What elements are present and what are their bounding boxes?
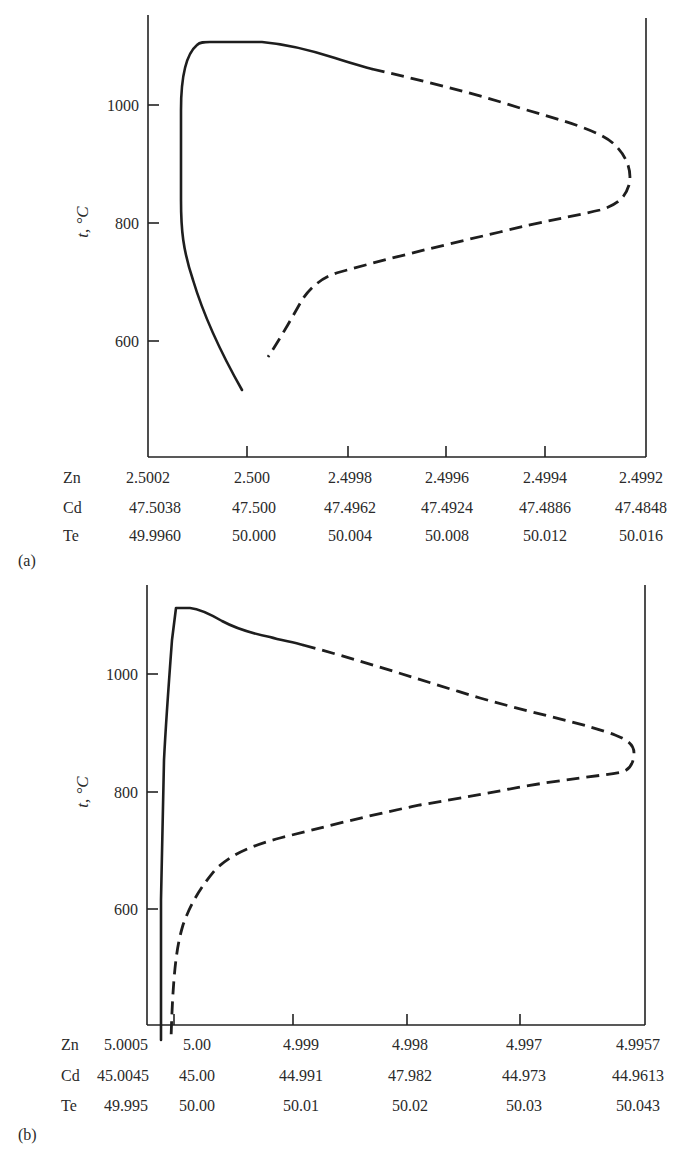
panel-a-cd-value: 47.4962 [324,499,376,516]
panel-a-cd-value: 47.4848 [615,499,667,516]
panel-a-zn-value: 2.4992 [619,469,663,486]
figure-canvas: 1000 800 600 t, °C Zn 2.5002 2.500 2.499… [0,0,684,1166]
panel-b-te-value: 50.01 [283,1097,319,1114]
panel-b-cd-value: 44.973 [502,1067,546,1084]
panel-a-ytick-label-1000: 1000 [107,97,139,114]
panel-a-zn-value: 2.5002 [126,469,170,486]
panel-a-zn-value: 2.4996 [425,469,469,486]
panel-a-te-value: 50.008 [425,527,469,544]
panel-b-row-label-cd: Cd [61,1067,80,1084]
panel-b-te-value: 50.00 [179,1097,215,1114]
panel-a-zn-value: 2.500 [234,469,270,486]
panel-a-row-label-te: Te [63,527,79,544]
panel-b-cd-value: 45.00 [179,1067,215,1084]
panel-b-te-value: 50.02 [392,1097,428,1114]
panel-a-cd-value: 47.4924 [421,499,473,516]
panel-b-zn-value: 4.997 [506,1036,542,1053]
panel-b: 1000 800 600 t, °C Zn 5.0005 5.00 4.999 … [18,585,664,1144]
panel-b-cd-value: 45.0045 [97,1067,149,1084]
panel-b-row-label-te: Te [61,1097,77,1114]
panel-b-te-value: 50.043 [616,1097,660,1114]
panel-b-ytick-label-800: 800 [114,784,138,801]
panel-b-zn-value: 4.9957 [616,1036,660,1053]
panel-a-cd-value: 47.5038 [129,499,181,516]
panel-b-ytick-label-1000: 1000 [106,666,138,683]
panel-a-label: (a) [18,552,36,570]
panel-a-row-label-cd: Cd [63,499,82,516]
panel-b-dashed-curve [171,645,634,1040]
panel-a-y-axis-label: t, °C [73,206,92,238]
panel-a-te-value: 50.004 [328,527,372,544]
panel-b-label: (b) [18,1126,37,1144]
panel-b-cd-value: 44.9613 [612,1067,664,1084]
panel-b-row-label-zn: Zn [61,1036,79,1053]
panel-a-te-value: 50.016 [619,527,663,544]
panel-a-te-value: 50.000 [232,527,276,544]
panel-b-cd-value: 44.991 [279,1067,323,1084]
panel-a-cd-value: 47.500 [232,499,276,516]
panel-b-solid-curve [161,608,303,1040]
panel-b-zn-value: 5.0005 [104,1036,148,1053]
panel-a-row-label-zn: Zn [63,469,81,486]
panel-b-zn-value: 4.998 [392,1036,428,1053]
panel-b-x-tick-table: Zn 5.0005 5.00 4.999 4.998 4.997 4.9957 … [61,1036,664,1114]
panel-b-te-value: 50.03 [506,1097,542,1114]
panel-b-cd-value: 47.982 [388,1067,432,1084]
panel-b-zn-value: 5.00 [183,1036,211,1053]
panel-a-ytick-label-600: 600 [115,333,139,350]
panel-a-te-value: 49.9960 [129,527,181,544]
panel-b-te-value: 49.995 [104,1097,148,1114]
panel-a-ytick-label-800: 800 [115,215,139,232]
panel-a-x-tick-table: Zn 2.5002 2.500 2.4998 2.4996 2.4994 2.4… [63,469,667,544]
panel-a-solid-curve [181,42,372,390]
panel-a-dashed-curve [268,69,630,357]
panel-a-te-value: 50.012 [523,527,567,544]
panel-a-cd-value: 47.4886 [519,499,571,516]
panel-a-zn-value: 2.4994 [523,469,567,486]
panel-b-ytick-label-600: 600 [114,901,138,918]
panel-b-zn-value: 4.999 [283,1036,319,1053]
panel-a-zn-value: 2.4998 [328,469,372,486]
panel-b-y-axis-label: t, °C [73,776,92,808]
panel-a: 1000 800 600 t, °C Zn 2.5002 2.500 2.499… [18,15,667,570]
